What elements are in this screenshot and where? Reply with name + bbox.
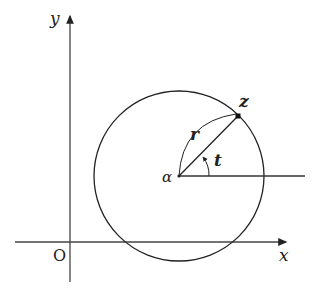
complex-circle-diagram: y x O α z r t	[0, 0, 325, 301]
point-label: z	[238, 91, 249, 111]
z-point	[236, 114, 241, 119]
radius-label: r	[190, 124, 200, 144]
y-axis-label: y	[49, 8, 60, 28]
angle-label: t	[214, 150, 222, 170]
origin-label: O	[53, 246, 66, 265]
center-point	[177, 174, 180, 177]
center-label: α	[162, 168, 172, 186]
angle-arc	[203, 157, 209, 176]
x-axis-label: x	[279, 245, 289, 265]
radius-segment	[179, 116, 238, 176]
